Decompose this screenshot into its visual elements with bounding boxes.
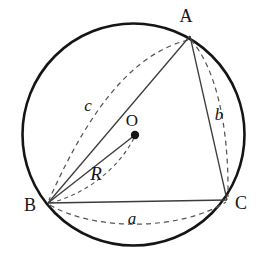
vertex-label-c: C: [235, 193, 247, 213]
arc-a: [50, 202, 226, 224]
vertex-label-b: B: [24, 195, 36, 215]
side-label-a: a: [128, 209, 137, 228]
geometry-figure: A B C O R c b a: [0, 0, 277, 257]
vertex-label-a: A: [180, 6, 193, 26]
circumcircle-diagram: A B C O R c b a: [0, 0, 277, 257]
center-label-o: O: [126, 111, 138, 130]
side-label-c: c: [84, 96, 92, 115]
side-label-b: b: [215, 105, 224, 124]
radius-label-r: R: [89, 163, 102, 184]
side-bc: [48, 200, 227, 203]
side-ab: [48, 36, 190, 203]
center-point-dot: [131, 131, 139, 139]
